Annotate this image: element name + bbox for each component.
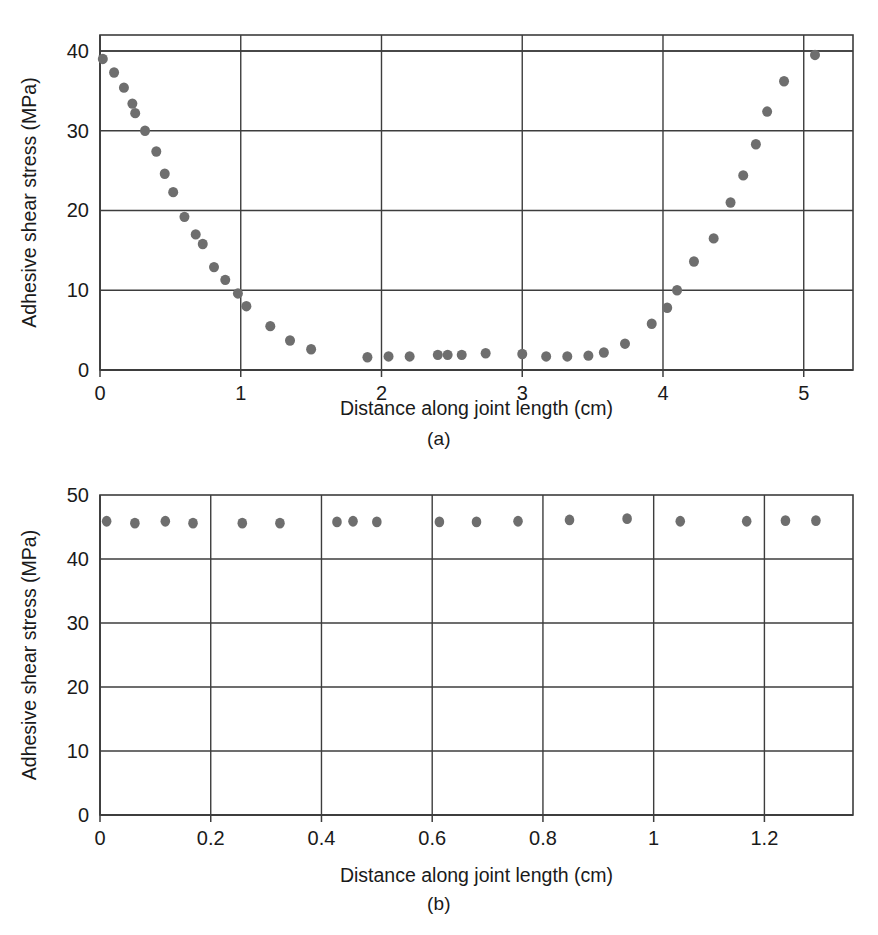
data-point: [384, 351, 394, 361]
data-point: [362, 352, 372, 362]
x-axis-title: Distance along joint length (cm): [340, 864, 613, 886]
data-point: [562, 351, 572, 361]
data-point: [332, 516, 342, 527]
data-point: [119, 82, 129, 92]
chart-panel-a: 010203040012345Distance along joint leng…: [0, 0, 878, 470]
data-point: [583, 350, 593, 360]
data-point: [179, 212, 189, 222]
data-point: [622, 513, 632, 524]
data-point: [811, 515, 821, 526]
data-point: [742, 516, 752, 527]
data-point: [237, 518, 247, 529]
x-tick-label: 0.4: [308, 827, 336, 849]
data-point: [565, 515, 575, 526]
data-point: [98, 54, 108, 64]
figure-container: 010203040012345Distance along joint leng…: [0, 0, 878, 935]
data-point: [168, 187, 178, 197]
panel-b-caption: (b): [0, 893, 878, 915]
x-tick-label: 4: [657, 382, 668, 404]
y-axis-title: Adhesive shear stress (MPa): [18, 77, 40, 327]
data-point: [348, 516, 358, 527]
data-point: [275, 518, 285, 529]
data-point: [241, 301, 251, 311]
data-point: [151, 146, 161, 156]
y-tick-label: 40: [67, 40, 89, 62]
data-point: [762, 106, 772, 116]
chart-panel-b: 0102030405000.20.40.60.811.2Distance alo…: [0, 470, 878, 935]
data-point: [233, 288, 243, 298]
x-tick-label: 1: [235, 382, 246, 404]
data-point: [140, 126, 150, 136]
x-tick-label: 0.6: [418, 827, 446, 849]
y-tick-label: 10: [67, 740, 89, 762]
data-point: [689, 256, 699, 266]
y-tick-label: 30: [67, 612, 89, 634]
data-point: [620, 338, 630, 348]
data-point: [513, 516, 523, 527]
data-point: [599, 347, 609, 357]
y-tick-label: 20: [67, 676, 89, 698]
data-point: [130, 518, 140, 529]
y-tick-label: 20: [67, 199, 89, 221]
data-point: [102, 516, 112, 527]
data-point: [751, 139, 761, 149]
plot-frame: [100, 495, 853, 815]
data-point: [472, 516, 482, 527]
data-point: [435, 516, 445, 527]
x-tick-label: 0: [94, 827, 105, 849]
data-point: [481, 348, 491, 358]
data-point: [372, 516, 382, 527]
data-point: [662, 303, 672, 313]
data-point: [198, 239, 208, 249]
panel-a-caption: (a): [0, 428, 878, 450]
y-tick-label: 40: [67, 548, 89, 570]
data-point: [127, 98, 137, 108]
data-point: [779, 76, 789, 86]
data-point: [738, 170, 748, 180]
data-point: [433, 350, 443, 360]
y-tick-label: 0: [78, 359, 89, 381]
y-tick-label: 30: [67, 120, 89, 142]
data-point: [306, 344, 316, 354]
data-point: [675, 516, 685, 527]
data-point: [405, 351, 415, 361]
data-point: [709, 233, 719, 243]
y-tick-label: 50: [67, 484, 89, 506]
data-point: [191, 229, 201, 239]
data-point: [541, 351, 551, 361]
x-tick-label: 1: [648, 827, 659, 849]
scatter-chart-a: 010203040012345Distance along joint leng…: [0, 0, 878, 430]
x-tick-label: 0.2: [197, 827, 225, 849]
x-tick-label: 1.2: [751, 827, 779, 849]
data-point: [457, 350, 467, 360]
data-point: [647, 319, 657, 329]
data-point: [161, 516, 171, 527]
data-point: [726, 197, 736, 207]
data-point: [160, 169, 170, 179]
data-series: [102, 513, 821, 528]
data-point: [130, 108, 140, 118]
plot-frame: [100, 35, 853, 370]
data-point: [672, 285, 682, 295]
x-axis-title: Distance along joint length (cm): [340, 397, 613, 419]
data-point: [220, 275, 230, 285]
data-point: [285, 335, 295, 345]
data-point: [810, 50, 820, 60]
data-point: [109, 67, 119, 77]
data-point: [781, 515, 791, 526]
data-point: [517, 349, 527, 359]
data-point: [188, 518, 198, 529]
x-tick-label: 0: [94, 382, 105, 404]
data-point: [209, 262, 219, 272]
scatter-chart-b: 0102030405000.20.40.60.811.2Distance alo…: [0, 470, 878, 895]
x-tick-label: 0.8: [529, 827, 557, 849]
x-tick-label: 5: [798, 382, 809, 404]
y-tick-label: 0: [78, 804, 89, 826]
data-series: [98, 50, 820, 363]
data-point: [443, 350, 453, 360]
y-tick-label: 10: [67, 279, 89, 301]
y-axis-title: Adhesive shear stress (MPa): [18, 530, 40, 780]
data-point: [265, 321, 275, 331]
